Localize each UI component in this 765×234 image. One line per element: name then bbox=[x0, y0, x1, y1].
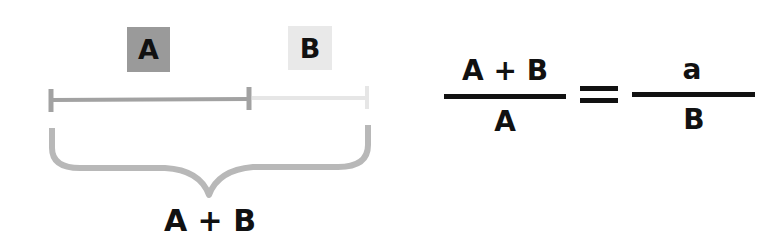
segment-b bbox=[252, 86, 367, 109]
segment-a bbox=[51, 87, 249, 112]
diagram-graphics bbox=[0, 0, 765, 234]
right-denominator: B bbox=[654, 106, 734, 134]
brace-label: A + B bbox=[150, 206, 270, 234]
left-numerator: A + B bbox=[445, 57, 565, 85]
right-numerator: a bbox=[652, 56, 732, 84]
equals-sign bbox=[580, 86, 618, 103]
curly-brace bbox=[52, 125, 368, 195]
left-denominator: A bbox=[465, 108, 545, 136]
